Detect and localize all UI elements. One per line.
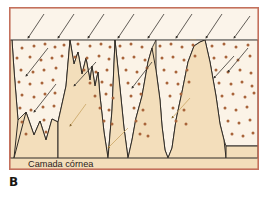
granule-dot bbox=[241, 81, 244, 84]
caption-camada-cornea: Camada córnea bbox=[28, 159, 94, 169]
granule-dot bbox=[108, 109, 111, 112]
granule-dot bbox=[235, 109, 238, 112]
granule-dot bbox=[89, 82, 92, 85]
granule-dot bbox=[238, 122, 241, 125]
diagram-body: Camada córnea bbox=[10, 8, 258, 169]
granule-dot bbox=[144, 123, 147, 126]
granule-dot bbox=[52, 79, 55, 82]
granule-dot bbox=[25, 133, 28, 136]
granule-dot bbox=[29, 56, 32, 59]
granule-dot bbox=[83, 69, 86, 72]
granule-dot bbox=[21, 121, 24, 124]
granule-dot bbox=[21, 47, 24, 50]
granule-dot bbox=[54, 46, 57, 49]
granule-dot bbox=[142, 109, 145, 112]
granule-dot bbox=[32, 71, 35, 74]
granule-dot bbox=[175, 71, 178, 74]
granule-dot bbox=[231, 133, 234, 136]
right-base bbox=[226, 146, 258, 158]
granule-dot bbox=[33, 96, 36, 99]
granule-dot bbox=[144, 59, 147, 62]
stratum-corneum-illustration: Camada córnea bbox=[0, 0, 268, 198]
granule-dot bbox=[183, 59, 186, 62]
granule-dot bbox=[111, 123, 114, 126]
granule-dot bbox=[140, 93, 143, 96]
granule-dot bbox=[159, 45, 162, 48]
granule-dot bbox=[169, 95, 172, 98]
granule-dot bbox=[163, 69, 166, 72]
granule-dot bbox=[44, 43, 47, 46]
granule-dot bbox=[251, 85, 254, 88]
granule-dot bbox=[166, 82, 169, 85]
granule-dot bbox=[224, 107, 227, 110]
granule-dot bbox=[185, 123, 188, 126]
granule-dot bbox=[186, 69, 189, 72]
granule-dot bbox=[232, 93, 235, 96]
granule-dot bbox=[221, 95, 224, 98]
granule-dot bbox=[172, 56, 175, 59]
granule-dot bbox=[100, 43, 103, 46]
granule-dot bbox=[225, 56, 228, 59]
granule-dot bbox=[247, 44, 250, 47]
granule-dot bbox=[89, 45, 92, 48]
granule-dot bbox=[170, 43, 173, 46]
granule-dot bbox=[133, 56, 136, 59]
granule-dot bbox=[63, 44, 66, 47]
granule-dot bbox=[103, 120, 106, 123]
granule-dot bbox=[112, 97, 115, 100]
granule-dot bbox=[61, 55, 64, 58]
granule-dot bbox=[94, 95, 97, 98]
granule-dot bbox=[42, 106, 45, 109]
granule-dot bbox=[20, 69, 23, 72]
panel-label-b: B bbox=[9, 176, 18, 188]
granule-dot bbox=[136, 71, 139, 74]
upper-band-background bbox=[10, 8, 258, 40]
granule-dot bbox=[244, 96, 247, 99]
granule-dot bbox=[19, 107, 22, 110]
granule-dot bbox=[161, 57, 164, 60]
granule-dot bbox=[101, 81, 104, 84]
granule-dot bbox=[110, 84, 113, 87]
granule-dot bbox=[253, 92, 256, 95]
granule-dot bbox=[51, 57, 54, 60]
granule-dot bbox=[141, 46, 144, 49]
granule-dot bbox=[133, 107, 136, 110]
granule-dot bbox=[44, 93, 47, 96]
granule-dot bbox=[135, 120, 138, 123]
figure-panel-b: Camada córnea B bbox=[0, 0, 268, 198]
granule-dot bbox=[33, 45, 36, 48]
granule-dot bbox=[21, 94, 24, 97]
granule-dot bbox=[40, 59, 43, 62]
granule-dot bbox=[211, 45, 214, 48]
granule-dot bbox=[181, 46, 184, 49]
granule-dot bbox=[29, 83, 32, 86]
granule-dot bbox=[235, 46, 238, 49]
granule-dot bbox=[138, 83, 141, 86]
granule-dot bbox=[246, 106, 249, 109]
granule-dot bbox=[55, 67, 58, 70]
granule-dot bbox=[122, 57, 125, 60]
granule-dot bbox=[98, 55, 101, 58]
granule-dot bbox=[230, 83, 233, 86]
granule-dot bbox=[105, 93, 108, 96]
granule-dot bbox=[106, 69, 109, 72]
granule-dot bbox=[86, 57, 89, 60]
granule-dot bbox=[183, 109, 186, 112]
granule-dot bbox=[18, 81, 21, 84]
granule-dot bbox=[147, 135, 150, 138]
granule-dot bbox=[218, 82, 221, 85]
granule-dot bbox=[227, 120, 230, 123]
granule-dot bbox=[250, 72, 253, 75]
granule-dot bbox=[43, 69, 46, 72]
granule-dot bbox=[239, 69, 242, 72]
granule-dot bbox=[54, 92, 57, 95]
granule-dot bbox=[249, 55, 252, 58]
granule-dot bbox=[242, 135, 245, 138]
granule-dot bbox=[175, 120, 178, 123]
granule-dot bbox=[53, 105, 56, 108]
granule-dot bbox=[249, 119, 252, 122]
granule-dot bbox=[95, 71, 98, 74]
granule-dot bbox=[223, 43, 226, 46]
granule-dot bbox=[119, 45, 122, 48]
granule-dot bbox=[172, 107, 175, 110]
